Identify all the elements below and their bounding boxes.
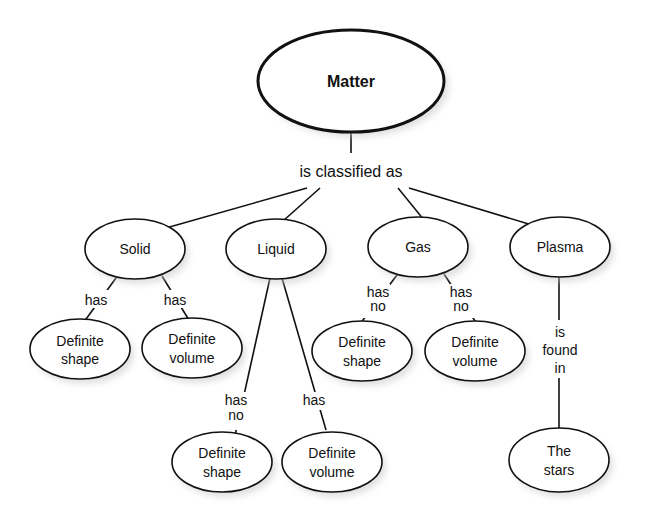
node-gas-shape: Definite shape [312, 321, 416, 386]
node-plasma: Plasma [510, 217, 614, 282]
node-solid: Solid [85, 219, 189, 284]
leaf-line2: shape [61, 351, 99, 367]
link-solid-volume: has [164, 292, 187, 308]
concept-map: is classified as has has has no has has … [0, 0, 645, 520]
node-gas-label: Gas [405, 239, 431, 255]
link-plasma-2: found [542, 342, 577, 358]
leaf-line2: stars [544, 462, 574, 478]
leaf-line2: volume [452, 353, 497, 369]
node-solid-shape: Definite shape [30, 319, 134, 384]
node-matter: Matter [258, 30, 449, 137]
leaf-line1: The [547, 443, 571, 459]
node-gas: Gas [368, 217, 472, 282]
link-is-classified-as: is classified as [299, 163, 402, 180]
link-gas-shape-2: no [370, 298, 386, 314]
node-solid-label: Solid [119, 241, 150, 257]
leaf-line1: Definite [308, 445, 356, 461]
link-liquid-shape-1: has [225, 392, 248, 408]
node-plasma-label: Plasma [537, 239, 584, 255]
link-labels: is classified as has has has no has has … [78, 156, 580, 430]
link-solid-shape: has [85, 292, 108, 308]
node-liquid-shape: Definite shape [172, 432, 276, 497]
link-plasma-3: in [555, 360, 566, 376]
leaf-line1: Definite [198, 445, 246, 461]
link-liquid-shape-2: no [228, 407, 244, 423]
leaf-line2: volume [309, 464, 354, 480]
leaf-line2: shape [203, 464, 241, 480]
node-gas-volume: Definite volume [425, 321, 529, 386]
node-solid-volume: Definite volume [142, 318, 246, 383]
link-liquid-volume: has [303, 392, 326, 408]
node-matter-label: Matter [327, 73, 375, 90]
link-gas-volume-2: no [453, 298, 469, 314]
leaf-line1: Definite [338, 334, 386, 350]
node-liquid-volume: Definite volume [282, 432, 386, 497]
node-plasma-stars: The stars [509, 428, 613, 497]
leaf-line2: shape [343, 353, 381, 369]
leaf-line1: Definite [451, 334, 499, 350]
leaf-line1: Definite [168, 331, 216, 347]
node-liquid-label: Liquid [257, 241, 294, 257]
link-plasma-1: is [555, 324, 565, 340]
leaf-line1: Definite [56, 333, 104, 349]
leaf-line2: volume [169, 350, 214, 366]
edge-to-gas [398, 188, 424, 220]
node-liquid: Liquid [226, 219, 330, 284]
